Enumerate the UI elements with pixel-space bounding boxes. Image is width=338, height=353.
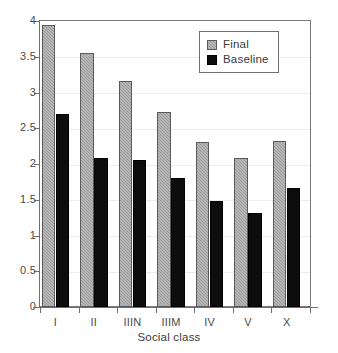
bar-final-iiim [157, 112, 171, 307]
bar-final-i [42, 25, 56, 307]
x-tick [310, 308, 311, 313]
legend-item-baseline: Baseline [207, 52, 269, 67]
x-tick [117, 308, 118, 313]
black-solid-swatch-icon [207, 55, 217, 65]
gray-checkered-swatch-icon [207, 40, 217, 50]
chart-legend: Final Baseline [199, 31, 279, 73]
x-tick-label-ii: II [91, 316, 98, 328]
legend-item-final: Final [207, 37, 269, 52]
bar-final-iiin [119, 81, 133, 307]
bar-baseline-i [56, 114, 70, 307]
y-tick-label: 4 [0, 15, 36, 26]
x-axis-line [33, 307, 318, 308]
x-tick [194, 308, 195, 313]
x-tick-label-iiin: IIIN [123, 316, 141, 328]
x-tick-label-i: I [54, 316, 57, 328]
y-tick-label: 1 [0, 230, 36, 241]
x-tick [271, 308, 272, 313]
y-tick-label: 0.5 [0, 265, 36, 276]
y-tick-label: 3 [0, 87, 36, 98]
y-tick-label: 0 [0, 301, 36, 312]
legend-label: Final [223, 38, 249, 51]
x-tick [79, 308, 80, 313]
legend-label: Baseline [223, 53, 269, 66]
bar-baseline-iiin [133, 160, 147, 307]
y-tick-label: 1.5 [0, 194, 36, 205]
bar-baseline-v [248, 213, 262, 307]
y-tick-label: 2 [0, 158, 36, 169]
bar-final-x [273, 141, 287, 307]
bar-baseline-x [287, 188, 301, 307]
y-tick-label: 2.5 [0, 122, 36, 133]
bar-baseline-iv [210, 201, 224, 307]
bar-final-v [234, 158, 248, 307]
bar-chart: 00.511.522.533.54 IIIIIINIIIMIVVX Social… [0, 0, 338, 353]
bar-final-iv [196, 142, 210, 307]
y-axis-line [39, 20, 40, 308]
y-tick-label: 3.5 [0, 51, 36, 62]
bar-final-ii [80, 53, 94, 307]
x-tick-label-x: X [283, 316, 291, 328]
x-tick-label-v: V [244, 316, 252, 328]
bar-baseline-iiim [171, 178, 185, 307]
bar-baseline-ii [94, 158, 108, 307]
x-tick-label-iiim: IIIM [161, 316, 180, 328]
x-axis-title: Social class [0, 331, 338, 344]
x-tick [156, 308, 157, 313]
x-tick [40, 308, 41, 313]
x-tick-label-iv: IV [204, 316, 215, 328]
x-tick [233, 308, 234, 313]
